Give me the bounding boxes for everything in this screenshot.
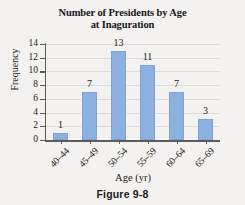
bar	[82, 92, 97, 140]
bar	[140, 65, 155, 140]
y-axis-tick-label: 14	[12, 38, 38, 48]
x-axis-tick	[90, 141, 91, 144]
y-axis-tick-label: 0	[12, 134, 38, 144]
bar-value-label: 3	[194, 105, 218, 116]
bar-value-label: 7	[165, 78, 189, 89]
x-axis-line	[45, 140, 220, 142]
x-axis-label: Age (yr)	[46, 172, 220, 183]
x-axis-tick	[206, 141, 207, 144]
bar-value-label: 1	[49, 119, 73, 130]
x-axis-tick-label: 65–69	[193, 146, 216, 169]
y-axis-tick-label: 12	[12, 52, 38, 62]
x-axis-tick-label: 60–64	[164, 146, 187, 169]
y-axis-tick-label: 8	[12, 79, 38, 89]
x-axis-tick	[177, 141, 178, 144]
y-axis-tick-label: 4	[12, 107, 38, 117]
figure-container: Number of Presidents by Age at Inagurati…	[0, 0, 245, 205]
x-axis-tick	[119, 141, 120, 144]
y-axis-tick-label: 2	[12, 120, 38, 130]
bar	[198, 119, 213, 140]
plot-wrapper: Frequency 02468101214 40–4445–4950–5455–…	[0, 0, 245, 205]
bar-value-label: 11	[136, 51, 160, 62]
x-axis-tick-label: 40–44	[48, 146, 71, 169]
y-axis-tick-label: 10	[12, 65, 38, 75]
y-axis-tick-label: 6	[12, 93, 38, 103]
x-axis-tick	[61, 141, 62, 144]
bar-value-label: 13	[107, 37, 131, 48]
x-axis-tick-label: 50–54	[106, 146, 129, 169]
x-axis-tick	[148, 141, 149, 144]
bar	[169, 92, 184, 140]
x-axis-tick-label: 45–49	[77, 146, 100, 169]
bar	[53, 133, 68, 140]
figure-caption: Figure 9-8	[0, 188, 245, 200]
bar	[111, 51, 126, 140]
bar-value-label: 7	[78, 78, 102, 89]
x-axis-tick-label: 55–59	[135, 146, 158, 169]
